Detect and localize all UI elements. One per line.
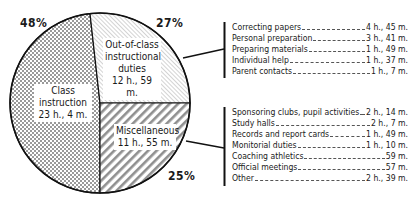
row-label: Official meetings: [232, 162, 297, 173]
label-miscellaneous: Miscellaneous 11 h., 55 m.: [114, 124, 176, 150]
leader-dots: [304, 158, 384, 159]
row-label: Individual help: [232, 55, 289, 66]
label-line: Out-of-class: [105, 39, 159, 51]
row-label: Monitorial duties: [232, 140, 297, 151]
row-value: 4 h., 45 m.: [366, 22, 408, 33]
row-value: 1 h., 37 m.: [366, 55, 408, 66]
leader-dots: [298, 169, 384, 170]
leader-dots: [290, 62, 365, 63]
breakdown-row: Correcting papers4 h., 45 m.: [232, 22, 408, 33]
row-value: 1 h., 49 m.: [366, 44, 408, 55]
percent-out-of-class: 27%: [156, 16, 183, 30]
label-line: Miscellaneous: [116, 125, 174, 137]
breakdown-row: Records and report cards1 h., 49 m.: [232, 129, 408, 140]
row-value: 2 h., 39 m.: [366, 173, 408, 184]
leader-dots: [293, 73, 370, 74]
row-label: Other: [232, 173, 254, 184]
breakdown-row: Personal preparation3 h., 41 m.: [232, 33, 408, 44]
label-class-instruction: Class instruction 23 h., 4 m.: [34, 84, 92, 122]
breakdown-row: Parent contacts1 h., 7 m.: [232, 66, 408, 77]
row-value: 57 m.: [386, 162, 408, 173]
breakdown-row: Sponsoring clubs, pupil activities2 h., …: [232, 107, 408, 118]
label-out-of-class: Out-of-class instructional duties 12 h.,…: [103, 38, 161, 100]
breakdown-row: Study halls2 h., 7 m.: [232, 118, 408, 129]
row-label: Preparing materials: [232, 44, 308, 55]
breakdown-row: Preparing materials1 h., 49 m.: [232, 44, 408, 55]
miscellaneous-breakdown: Sponsoring clubs, pupil activities2 h., …: [232, 107, 408, 184]
breakdown-row: Individual help1 h., 37 m.: [232, 55, 408, 66]
row-label: Records and report cards: [232, 129, 329, 140]
label-line: instruction: [36, 97, 90, 109]
row-value: 1 h., 49 m.: [366, 129, 408, 140]
row-value: 1 h., 7 m.: [371, 66, 408, 77]
leader-dots: [360, 114, 365, 115]
row-value: 1 h., 10 m.: [366, 140, 408, 151]
row-label: Coaching athletics: [232, 151, 303, 162]
label-line: duties: [105, 63, 159, 75]
label-line: 12 h., 59 m.: [105, 75, 159, 99]
leader-dots: [298, 147, 365, 148]
row-value: 3 h., 41 m.: [366, 33, 408, 44]
row-value: 2 h., 7 m.: [371, 118, 408, 129]
breakdown-row: Official meetings57 m.: [232, 162, 408, 173]
row-label: Personal preparation: [232, 33, 312, 44]
connector-out-of-class: [183, 49, 224, 58]
label-line: 23 h., 4 m.: [36, 109, 90, 121]
row-label: Sponsoring clubs, pupil activities: [232, 107, 359, 118]
percent-miscellaneous: 25%: [168, 169, 195, 183]
breakdown-row: Monitorial duties1 h., 10 m.: [232, 140, 408, 151]
row-label: Correcting papers: [232, 22, 301, 33]
leader-dots: [302, 29, 365, 30]
row-label: Study halls: [232, 118, 275, 129]
leader-dots: [313, 40, 365, 41]
label-line: Class: [36, 85, 90, 97]
row-label: Parent contacts: [232, 66, 292, 77]
row-value: 59 m.: [386, 151, 408, 162]
row-value: 2 h., 14 m.: [366, 107, 408, 118]
leader-dots: [276, 125, 370, 126]
breakdown-row: Coaching athletics59 m.: [232, 151, 408, 162]
label-line: instructional: [105, 51, 159, 63]
leader-dots: [255, 180, 365, 181]
leader-dots: [309, 51, 365, 52]
breakdown-row: Other2 h., 39 m.: [232, 173, 408, 184]
percent-class-instruction: 48%: [20, 16, 47, 30]
connector-misc: [186, 141, 224, 148]
leader-dots: [330, 136, 365, 137]
label-line: 11 h., 55 m.: [116, 137, 174, 149]
out-of-class-breakdown: Correcting papers4 h., 45 m. Personal pr…: [232, 22, 408, 77]
